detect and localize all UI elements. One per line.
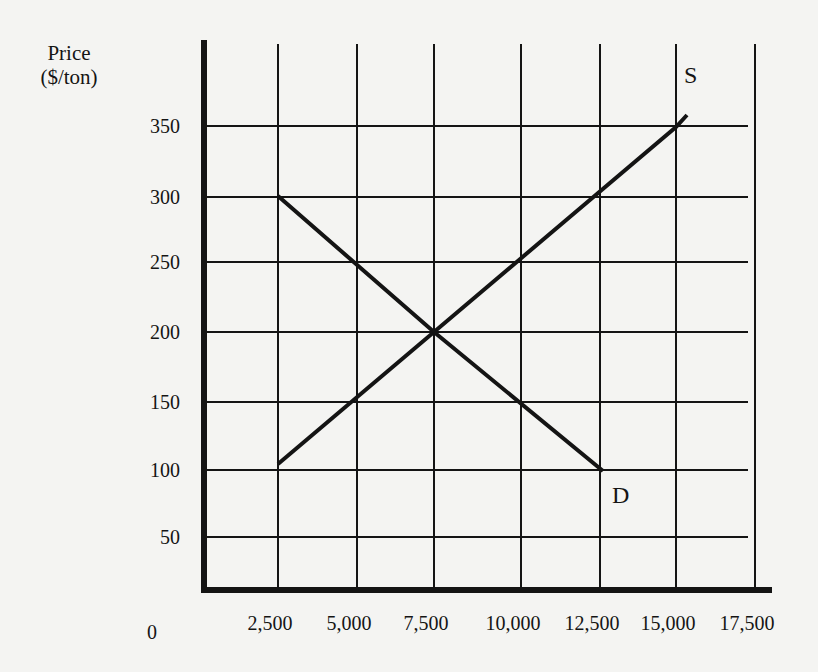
demand-curve-label: D [612,482,629,509]
x-tick-label: 10,000 [486,612,541,635]
x-tick-label: 17,500 [720,612,775,635]
x-tick-label: 2,500 [248,612,293,635]
x-tick-label: 15,000 [641,612,696,635]
x-tick-label: 7,500 [404,612,449,635]
supply-demand-chart: ​ Price ($/ton) 35030025020015010050 2,5… [0,0,818,672]
x-tick-labels: 2,5005,0007,50010,00012,50015,00017,500 [0,0,818,672]
supply-curve-label: S [684,62,697,89]
x-tick-label: 12,500 [565,612,620,635]
origin-label: 0 [147,622,157,642]
x-tick-label: 5,000 [327,612,372,635]
